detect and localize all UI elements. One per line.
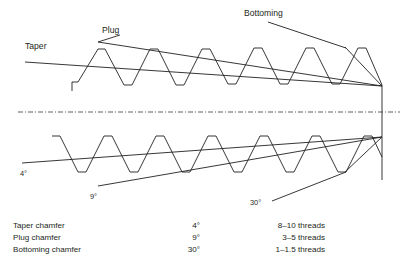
label-plug: Plug	[102, 25, 119, 35]
lower-taper-chamfer-line	[22, 137, 382, 163]
upper-thread-group: Taper Plug Bottoming	[25, 8, 382, 112]
legend-row: Bottoming chamfer 30° 1–1.5 threads	[13, 245, 325, 254]
lower-thread-group: 4° 9° 30°	[20, 112, 382, 207]
plug-leader-line	[98, 35, 120, 42]
label-bottoming: Bottoming	[244, 8, 283, 18]
legend-threads: 1–1.5 threads	[276, 245, 326, 254]
bottoming-chamfer-line	[345, 47, 382, 86]
angle-label-plug: 9°	[90, 192, 97, 201]
legend-angle: 9°	[192, 233, 200, 242]
diagram-canvas: Taper Plug Bottoming 4° 9° 30°	[0, 0, 413, 267]
angle-30-leader-line	[272, 172, 346, 201]
legend-table: Taper chamfer 4° 8–10 threads Plug chamf…	[13, 221, 325, 254]
legend-row: Taper chamfer 4° 8–10 threads	[13, 221, 325, 230]
legend-row: Plug chamfer 9° 3–5 threads	[13, 233, 325, 242]
lower-thread-profile	[52, 136, 382, 172]
legend-name: Plug chamfer	[13, 233, 61, 242]
bottoming-leader-line	[268, 22, 346, 48]
legend-angle: 4°	[192, 221, 200, 230]
legend-threads: 3–5 threads	[282, 233, 325, 242]
taper-chamfer-line	[25, 62, 382, 86]
angle-label-bottoming: 30°	[250, 198, 261, 207]
tap-chamfer-diagram: Taper Plug Bottoming 4° 9° 30°	[0, 0, 413, 267]
lower-plug-chamfer-line	[98, 137, 382, 186]
legend-name: Bottoming chamfer	[13, 245, 81, 254]
upper-thread-profile	[72, 48, 382, 91]
legend-angle: 30°	[188, 245, 200, 254]
legend-name: Taper chamfer	[13, 221, 65, 230]
plug-chamfer-line	[98, 42, 382, 86]
label-taper: Taper	[25, 41, 47, 51]
angle-label-taper: 4°	[20, 169, 27, 178]
legend-threads: 8–10 threads	[278, 221, 325, 230]
